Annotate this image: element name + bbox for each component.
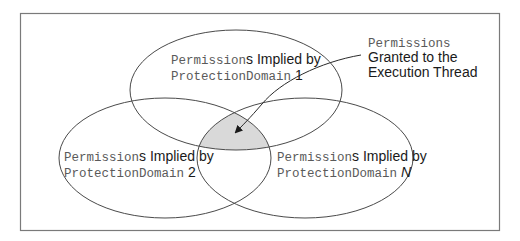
svg-text:Permissions Implied by: Permissions Implied by [277,148,427,165]
label-protection-domain-1: Permissions Implied by ProtectionDomain … [171,51,321,84]
label-protection-domain-2: Permissions Implied by ProtectionDomain … [64,148,214,181]
svg-text:ProtectionDomain 2: ProtectionDomain 2 [64,164,196,181]
svg-text:Permissions Implied by: Permissions Implied by [171,51,321,68]
label-protection-domain-n: Permissions Implied by ProtectionDomain … [277,148,427,181]
svg-text:ProtectionDomain 1: ProtectionDomain 1 [171,67,303,84]
svg-text:Permissions Implied by: Permissions Implied by [64,148,214,165]
svg-text:Execution Thread: Execution Thread [368,64,477,80]
svg-text:ProtectionDomain N: ProtectionDomain N [277,164,412,181]
venn-diagram: Permissions Implied by ProtectionDomain … [0,0,520,241]
svg-text:Granted to the: Granted to the [368,49,458,65]
